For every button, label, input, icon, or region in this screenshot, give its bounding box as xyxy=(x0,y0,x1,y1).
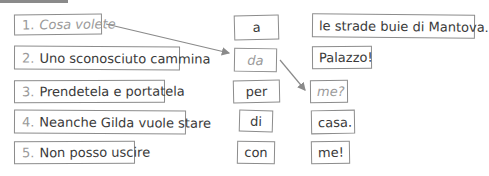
ending-5[interactable]: me! xyxy=(311,141,350,165)
ending-text: me! xyxy=(318,146,344,159)
sentence-start-2[interactable]: 2. Uno sconosciuto cammina xyxy=(14,46,180,71)
sentence-start-text: Uno sconosciuto cammina xyxy=(39,51,210,65)
item-number: 4. xyxy=(22,115,34,128)
item-number: 2. xyxy=(22,51,34,64)
preposition-a[interactable]: a xyxy=(234,14,280,40)
preposition-text: con xyxy=(244,146,268,159)
sentence-start-text: Prendetela e portatela xyxy=(39,85,184,99)
ending-3[interactable]: me? xyxy=(310,80,348,103)
sentence-start-text: Neanche Gilda vuole stare xyxy=(39,115,211,129)
sentence-start-text: Non posso uscire xyxy=(39,146,150,160)
sentence-start-4[interactable]: 4. Neanche Gilda vuole stare xyxy=(14,109,186,134)
preposition-per[interactable]: per xyxy=(233,80,280,104)
ending-text: le strade buie di Mantova. xyxy=(319,19,489,34)
ending-2[interactable]: Palazzo! xyxy=(312,46,372,70)
header-bar xyxy=(0,0,68,3)
preposition-text: da xyxy=(247,53,263,66)
ending-text: me? xyxy=(317,85,345,98)
item-number: 1. xyxy=(22,18,35,31)
item-number: 5. xyxy=(22,146,34,159)
ending-4[interactable]: casa. xyxy=(311,110,355,135)
preposition-text: a xyxy=(252,21,260,34)
preposition-text: di xyxy=(250,114,262,127)
preposition-da[interactable]: da xyxy=(234,48,277,73)
preposition-text: per xyxy=(246,85,268,98)
ending-1[interactable]: le strade buie di Mantova. xyxy=(312,13,475,39)
sentence-start-1[interactable]: 1. Cosa volete xyxy=(14,14,102,36)
sentence-start-3[interactable]: 3. Prendetela e portatela xyxy=(14,80,165,104)
item-number: 3. xyxy=(22,85,34,98)
ending-text: casa. xyxy=(318,115,352,129)
preposition-con[interactable]: con xyxy=(237,141,275,165)
sentence-start-text: Cosa volete xyxy=(39,17,115,31)
ending-text: Palazzo! xyxy=(319,51,373,64)
preposition-di[interactable]: di xyxy=(239,110,274,133)
sentence-start-5[interactable]: 5. Non posso uscire xyxy=(14,141,135,165)
arrow-preposition-to-ending xyxy=(280,60,305,90)
